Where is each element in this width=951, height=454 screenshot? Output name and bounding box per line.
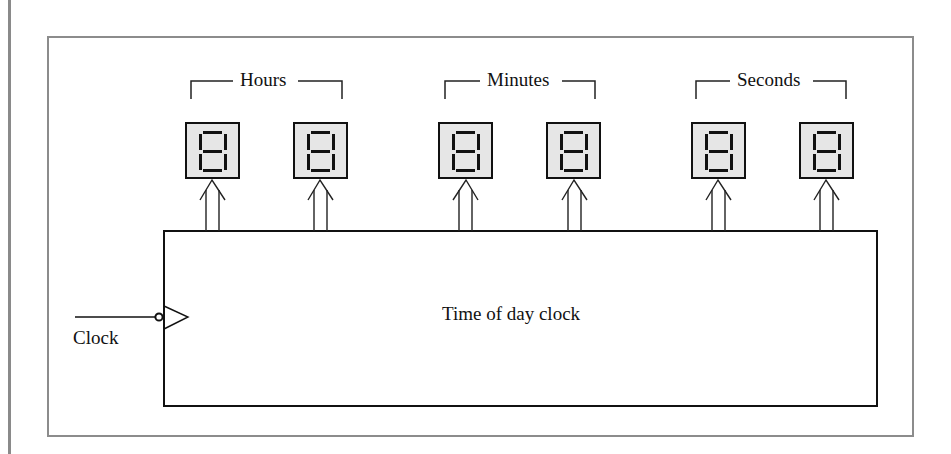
segment [203, 169, 222, 172]
segment [224, 134, 227, 150]
seven-segment-display-seconds-tens [691, 122, 746, 179]
segment [452, 134, 455, 150]
bracket-hours-right [298, 81, 342, 99]
bracket-minutes-right [562, 81, 595, 99]
bracket-minutes-left [445, 81, 480, 99]
segment [705, 134, 708, 150]
bus-arrow-2 [308, 180, 333, 231]
segment [817, 150, 836, 153]
segment [452, 154, 455, 170]
bus-arrow-3 [453, 180, 478, 231]
segment [817, 169, 836, 172]
segment [817, 131, 836, 134]
segment [813, 154, 816, 170]
segment [307, 134, 310, 150]
segment [199, 154, 202, 170]
bus-arrow-1 [200, 180, 225, 231]
clock-edge-triangle [164, 306, 188, 329]
segment [203, 150, 222, 153]
bus-arrow-4 [562, 180, 587, 231]
seven-segment-display-minutes-ones [546, 122, 601, 179]
segment [203, 131, 222, 134]
inversion-bubble [155, 313, 162, 320]
segment [709, 169, 728, 172]
segment [456, 131, 475, 134]
segment [332, 134, 335, 150]
segment [307, 154, 310, 170]
segment [311, 131, 330, 134]
bracket-seconds-left [696, 81, 730, 99]
segment [560, 154, 563, 170]
segment [311, 169, 330, 172]
seven-segment-display-hours-tens [185, 122, 240, 179]
segment [477, 154, 480, 170]
segment [332, 154, 335, 170]
bracket-hours-left [191, 81, 233, 99]
connectors [0, 0, 951, 454]
segment [564, 150, 583, 153]
segment [564, 169, 583, 172]
segment [477, 134, 480, 150]
segment [709, 150, 728, 153]
seven-segment-display-seconds-ones [799, 122, 854, 179]
segment [838, 134, 841, 150]
seven-segment-display-minutes-tens [438, 122, 493, 179]
segment [838, 154, 841, 170]
segment [456, 150, 475, 153]
segment [564, 131, 583, 134]
bus-arrow-5 [706, 180, 731, 231]
segment [199, 134, 202, 150]
segment [730, 154, 733, 170]
segment [813, 134, 816, 150]
segment [224, 154, 227, 170]
segment [709, 131, 728, 134]
segment [456, 169, 475, 172]
bracket-seconds-right [813, 81, 846, 99]
seven-segment-display-hours-ones [293, 122, 348, 179]
segment [585, 154, 588, 170]
segment [311, 150, 330, 153]
segment [730, 134, 733, 150]
segment [585, 134, 588, 150]
segment [705, 154, 708, 170]
segment [560, 134, 563, 150]
bus-arrow-6 [814, 180, 839, 231]
